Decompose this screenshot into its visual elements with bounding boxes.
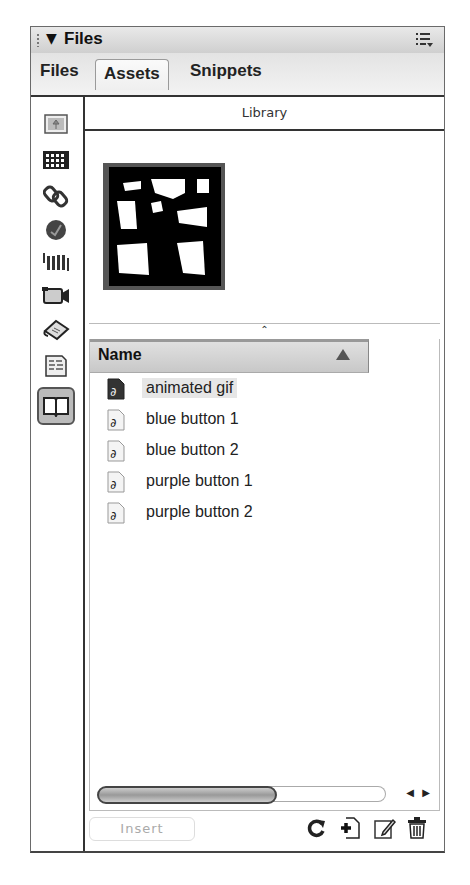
library-items: ∂ animated gif ∂ blue button 1 ∂ blue bu… [90,373,439,528]
library-pane: Library ⌃ Name [85,97,444,851]
list-item[interactable]: ∂ blue button 2 [90,435,439,466]
svg-text:∂: ∂ [110,509,116,523]
color-grid-icon [43,151,69,169]
horizontal-scrollbar[interactable]: ◀ ▶ [89,783,440,805]
list-item[interactable]: ∂ blue button 1 [90,404,439,435]
library-book-icon [42,395,70,417]
new-library-item-button[interactable] [338,816,362,840]
scroll-track[interactable] [269,786,386,802]
new-library-item-icon [340,817,360,839]
sidebar-item-flash[interactable] [41,217,71,243]
column-name-label: Name [98,346,142,364]
scroll-right-arrow-icon[interactable]: ▶ [422,787,430,798]
asset-category-sidebar [31,97,85,851]
library-item-icon: ∂ [107,409,125,431]
list-item[interactable]: ∂ animated gif [90,373,439,404]
library-item-icon: ∂ [107,471,125,493]
delete-button[interactable] [405,816,429,840]
svg-text:∂: ∂ [110,478,116,492]
tab-strip: Files Assets Snippets [31,53,444,97]
delete-icon [407,817,427,839]
list-item[interactable]: ∂ purple button 2 [90,497,439,528]
panel-titlebar[interactable]: ▼ Files [31,27,444,54]
sidebar-item-shockwave[interactable] [41,249,71,275]
library-item-icon: ∂ [107,378,125,400]
edit-button[interactable] [373,816,397,840]
scroll-left-arrow-icon[interactable]: ◀ [406,787,414,798]
panel-options-menu-icon[interactable] [416,32,434,48]
edit-icon [374,817,396,839]
scroll-thumb[interactable] [97,786,277,804]
files-panel: ▼ Files Files Assets Snippets [30,26,445,853]
preview-splitter[interactable]: ⌃ [89,323,440,338]
image-icon [44,114,68,134]
refresh-site-list-icon [306,818,326,838]
flash-icon [45,219,67,241]
list-item[interactable]: ∂ purple button 1 [90,466,439,497]
bottom-toolbar: Insert [85,813,444,851]
column-header-name[interactable]: Name [90,339,369,373]
template-icon [44,354,68,378]
sort-ascending-icon[interactable] [336,349,350,360]
tab-assets[interactable]: Assets [95,59,169,90]
library-item-icon: ∂ [107,440,125,462]
panel-title: Files [64,29,103,49]
library-item-icon: ∂ [107,502,125,524]
sidebar-item-urls[interactable] [41,183,71,209]
drag-grip-icon[interactable] [36,33,40,47]
collapse-arrow-icon[interactable]: ▼ [46,30,57,46]
chain-link-icon [43,184,69,208]
script-scroll-icon [42,319,70,341]
sidebar-item-colors[interactable] [41,147,71,173]
tab-snippets[interactable]: Snippets [182,57,270,85]
refresh-button[interactable] [304,816,328,840]
sidebar-item-scripts[interactable] [41,317,71,343]
svg-text:∂: ∂ [110,447,116,461]
sidebar-item-images[interactable] [41,111,71,137]
movie-camera-icon [42,285,70,307]
insert-button[interactable]: Insert [89,817,195,841]
library-list: Name ∂ animated gif ∂ blue button 1 ∂ bl… [89,339,440,811]
svg-text:∂: ∂ [110,385,116,399]
sidebar-item-movies[interactable] [41,283,71,309]
sidebar-item-library[interactable] [37,387,75,425]
asset-preview-thumbnail [103,163,225,290]
library-header: Library [85,97,444,131]
sidebar-item-templates[interactable] [41,353,71,379]
svg-text:∂: ∂ [110,416,116,430]
shockwave-icon [42,251,70,273]
tab-files[interactable]: Files [32,57,87,85]
